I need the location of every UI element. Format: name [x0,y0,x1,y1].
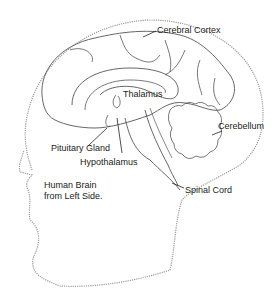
label-cerebral-cortex: Cerebral Cortex [157,25,221,36]
label-thalamus: Thalamus [123,89,163,100]
label-pituitary-gland: Pituitary Gland [51,143,110,154]
cerebellum-shape [168,102,221,158]
thalamus-shape [113,95,120,108]
cerebrum-outline [42,31,235,128]
brain-diagram [0,0,279,293]
label-cerebellum: Cerebellum [218,121,264,132]
label-hypothalamus: Hypothalamus [80,157,138,168]
caption-line-2: from Left Side. [44,191,103,202]
pituitary-shape [106,115,110,126]
caption-line-1: Human Brain [44,180,97,191]
label-spinal-cord: Spinal Cord [185,185,232,196]
